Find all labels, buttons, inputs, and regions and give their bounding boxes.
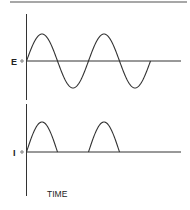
i-zero-marker <box>21 151 23 153</box>
waveform-diagram: E I TIME <box>0 0 190 210</box>
e-label: E <box>11 57 17 67</box>
i-current-pulse-1 <box>27 122 58 152</box>
i-current-pulse-2 <box>89 122 120 152</box>
i-label: I <box>13 148 16 158</box>
time-axis-label: TIME <box>47 189 68 199</box>
e-zero-marker <box>21 60 23 62</box>
